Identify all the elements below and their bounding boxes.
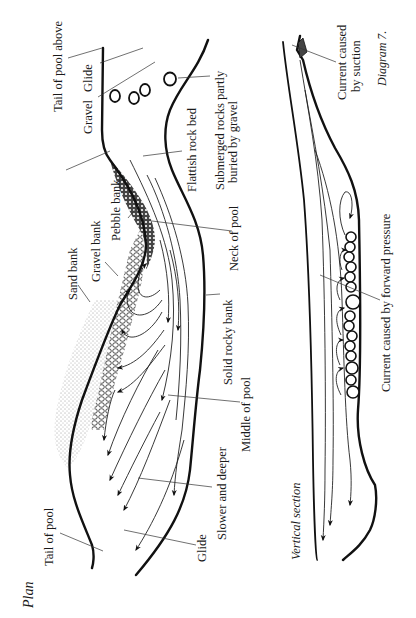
vertical-section-view: Current caused by suction Current caused… <box>283 24 393 560</box>
label-neck-of-pool: Neck of pool <box>227 205 241 271</box>
label-tail-of-pool: Tail of pool <box>42 507 56 566</box>
plan-title: Plan <box>21 582 36 609</box>
label-solid-rocky-bank: Solid rocky bank <box>221 299 235 385</box>
plan-view: Plan Tail of pool Tail of pool above Gli… <box>21 20 253 609</box>
submerged-rocks <box>110 73 176 105</box>
label-current-suction-2: by suction <box>349 40 363 92</box>
vertical-flow-lines <box>300 60 351 540</box>
label-pebble-bank: Pebble bank <box>109 179 123 241</box>
label-current-suction-1: Current caused <box>335 24 349 100</box>
river-pool-diagram: Plan Tail of pool Tail of pool above Gli… <box>0 0 416 618</box>
label-submerged-rocks-2: buried by gravel <box>226 101 240 183</box>
label-middle-of-pool: Middle of pool <box>239 376 253 452</box>
diagram-caption: Diagram 7. <box>375 31 389 87</box>
vertical-section-title: Vertical section <box>289 483 303 560</box>
label-glide-top: Glide <box>81 64 95 92</box>
water-surface-line <box>283 42 317 560</box>
label-flattish-rock-bed: Flattish rock bed <box>185 107 199 192</box>
label-gravel-bank: Gravel bank <box>89 220 103 282</box>
label-current-forward-pressure: Current caused by forward pressure <box>379 213 393 392</box>
label-glide-bottom: Glide <box>195 534 209 562</box>
vertical-bed-rocks <box>344 232 360 398</box>
label-submerged-rocks-1: Submerged rocks partly <box>213 70 227 190</box>
label-slower-and-deeper: Slower and deeper <box>215 446 229 540</box>
label-sand-bank: Sand bank <box>66 247 80 300</box>
label-tail-of-pool-above: Tail of pool above <box>51 20 65 112</box>
label-gravel: Gravel <box>81 99 95 134</box>
